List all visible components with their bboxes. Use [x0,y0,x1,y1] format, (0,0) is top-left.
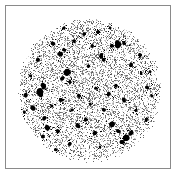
plate-container [0,0,177,178]
speckle-field-canvas [6,6,170,168]
circular-speckle-field [6,6,170,168]
